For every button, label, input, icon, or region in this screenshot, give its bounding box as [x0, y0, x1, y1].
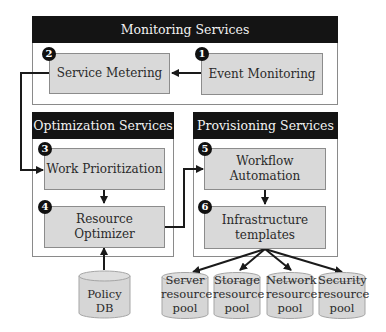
datastore-label-line2: resource [266, 288, 314, 302]
datastore-label-line2: resource [161, 288, 209, 302]
node-label: Service Metering [57, 66, 163, 81]
edge-templates-to-security [265, 249, 342, 272]
node-label: Work Prioritization [47, 162, 163, 177]
node-event-monitoring: Event Monitoring [201, 53, 323, 95]
edge-optimizer-to-workflow [165, 169, 203, 227]
node-workflow-automation: Workflow Automation [204, 148, 326, 190]
datastore-label-line1: Security [318, 274, 366, 288]
datastore-label-line1: Network [266, 274, 314, 288]
datastore-label-line1: Server [161, 274, 209, 288]
step-badge-4: 4 [38, 200, 52, 214]
edge-templates-to-server [193, 249, 265, 272]
step-badge-6: 6 [198, 200, 212, 214]
step-badge-2: 2 [42, 47, 56, 61]
datastore-storage-pool: Storage resource pool [213, 272, 261, 320]
datastore-label-line2: DB [78, 302, 131, 316]
datastore-label-line3: pool [213, 302, 261, 316]
datastore-label-line3: pool [161, 302, 209, 316]
datastore-label-line2: resource [213, 288, 261, 302]
node-label-line2: templates [235, 228, 295, 243]
datastore-label-line3: pool [266, 302, 314, 316]
node-label: Resource Optimizer [45, 212, 164, 242]
datastore-policy-db: Policy DB [78, 270, 131, 320]
node-label: Workflow Automation [205, 154, 325, 184]
step-badge-1: 1 [195, 47, 209, 61]
node-service-metering: Service Metering [49, 53, 170, 94]
datastore-security-pool: Security resource pool [318, 272, 366, 320]
node-label: Event Monitoring [208, 67, 315, 82]
node-label-line1: Infrastructure [222, 213, 308, 228]
node-resource-optimizer: Resource Optimizer [44, 206, 165, 248]
datastore-label-line2: resource [318, 288, 366, 302]
step-badge-5: 5 [198, 142, 212, 156]
datastore-server-pool: Server resource pool [161, 272, 209, 320]
datastore-network-pool: Network resource pool [266, 272, 314, 320]
node-work-prioritization: Work Prioritization [44, 148, 165, 190]
node-infrastructure-templates: Infrastructure templates [204, 206, 326, 249]
step-badge-3: 3 [38, 142, 52, 156]
datastore-label-line3: pool [318, 302, 366, 316]
datastore-label-line1: Policy [78, 288, 131, 302]
datastore-label-line1: Storage [213, 274, 261, 288]
